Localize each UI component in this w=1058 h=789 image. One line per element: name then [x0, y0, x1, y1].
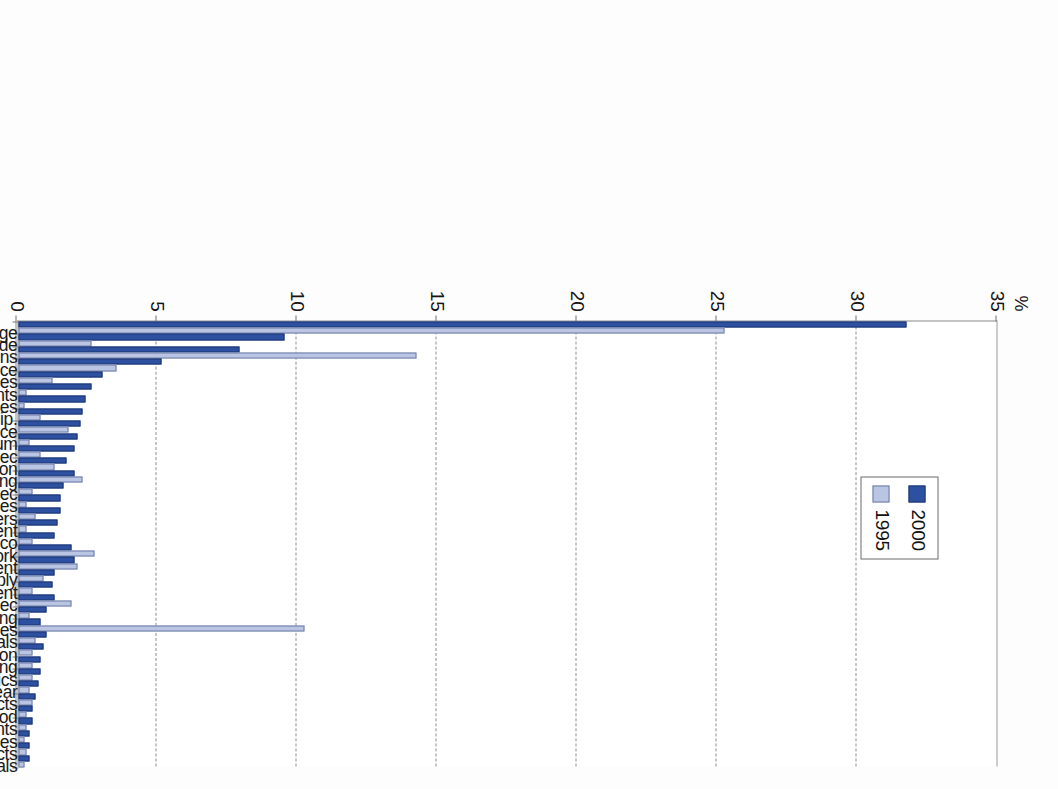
rotated-figure: 05101520253035% Transport and storageWho…	[0, 0, 1058, 789]
bar-1995	[18, 761, 24, 767]
bar-group	[18, 730, 998, 742]
bar-2000	[18, 346, 239, 352]
bar-2000	[18, 433, 77, 439]
bar-group	[18, 742, 998, 754]
bar-group	[18, 383, 998, 395]
bar-2000	[18, 383, 91, 389]
bar-group	[18, 333, 998, 345]
bar-2000	[18, 371, 102, 377]
bar-2000	[18, 556, 74, 562]
bar-2000	[18, 494, 60, 500]
bar-group	[18, 395, 998, 407]
bar-1995	[18, 476, 82, 482]
bar-2000	[18, 470, 74, 476]
bar-group	[18, 618, 998, 630]
bar-2000	[18, 631, 46, 637]
bar-group	[18, 470, 998, 482]
tick-label-0: 0	[5, 275, 27, 311]
bar-1995	[18, 563, 77, 569]
bar-1995	[18, 451, 40, 457]
tick-label-10: 10	[285, 275, 307, 311]
bar-1995	[18, 501, 26, 507]
bar-1995	[18, 724, 26, 730]
legend-entry-2000: 2000	[906, 485, 928, 550]
bar-2000	[18, 457, 66, 463]
bar-group	[18, 358, 998, 370]
tick-label-20: 20	[565, 275, 587, 311]
bar-group	[18, 507, 998, 519]
bar-2000	[18, 680, 38, 686]
bar-1995	[18, 674, 32, 680]
bar-group	[18, 755, 998, 767]
bar-group	[18, 371, 998, 383]
bar-1995	[18, 352, 416, 358]
bar-group	[18, 631, 998, 643]
bar-1995	[18, 649, 32, 655]
bar-1995	[18, 686, 29, 692]
tick-label-5: 5	[145, 275, 167, 311]
bar-group	[18, 408, 998, 420]
tick-label-30: 30	[845, 275, 867, 311]
bar-1995	[18, 637, 35, 643]
legend-label-2000: 2000	[906, 509, 928, 550]
plot-inner	[18, 321, 996, 766]
bar-2000	[18, 717, 32, 723]
bar-1995	[18, 463, 54, 469]
bar-group	[18, 457, 998, 469]
bar-group	[18, 556, 998, 568]
bar-group	[18, 532, 998, 544]
bar-2000	[18, 705, 32, 711]
bar-group	[18, 643, 998, 655]
bar-2000	[18, 507, 60, 513]
bar-group	[18, 717, 998, 729]
bar-1995	[18, 600, 71, 606]
bar-group	[18, 420, 998, 432]
tick-15	[435, 315, 436, 321]
bar-2000	[18, 408, 82, 414]
bar-1995	[18, 699, 32, 705]
bar-group	[18, 433, 998, 445]
bar-1995	[18, 736, 24, 742]
bar-1995	[18, 587, 32, 593]
bar-2000	[18, 693, 35, 699]
bar-group	[18, 693, 998, 705]
tick-20	[575, 315, 576, 321]
bar-1995	[18, 748, 26, 754]
bar-1995	[18, 711, 26, 717]
bar-group	[18, 581, 998, 593]
legend-entry-1995: 1995	[870, 485, 892, 550]
legend-swatch-2000	[909, 485, 926, 502]
bar-1995	[18, 525, 26, 531]
legend-swatch-1995	[873, 485, 890, 502]
bar-1995	[18, 513, 35, 519]
tick-35	[995, 315, 996, 321]
tick-30	[855, 315, 856, 321]
bar-group	[18, 668, 998, 680]
bar-2000	[18, 544, 71, 550]
bar-group	[18, 482, 998, 494]
bar-2000	[18, 321, 906, 327]
plot-area: 05101520253035%	[17, 320, 997, 766]
tick-25	[715, 315, 716, 321]
bar-1995	[18, 575, 43, 581]
bar-group	[18, 321, 998, 333]
bar-2000	[18, 643, 43, 649]
axis-unit-label: %	[1009, 275, 1030, 311]
bar-group	[18, 494, 998, 506]
tick-10	[295, 315, 296, 321]
tick-5	[155, 315, 156, 321]
bar-series-container	[18, 321, 996, 766]
bar-group	[18, 569, 998, 581]
bar-1995	[18, 439, 29, 445]
bar-1995	[18, 488, 32, 494]
category-label: Basic metals	[0, 756, 17, 777]
page-canvas: 05101520253035% Transport and storageWho…	[0, 0, 1058, 789]
bar-1995	[18, 327, 724, 333]
bar-2000	[18, 532, 54, 538]
bar-2000	[18, 482, 63, 488]
bar-2000	[18, 594, 54, 600]
tick-0	[15, 315, 16, 321]
bar-2000	[18, 618, 40, 624]
tick-label-25: 25	[705, 275, 727, 311]
bar-2000	[18, 606, 46, 612]
